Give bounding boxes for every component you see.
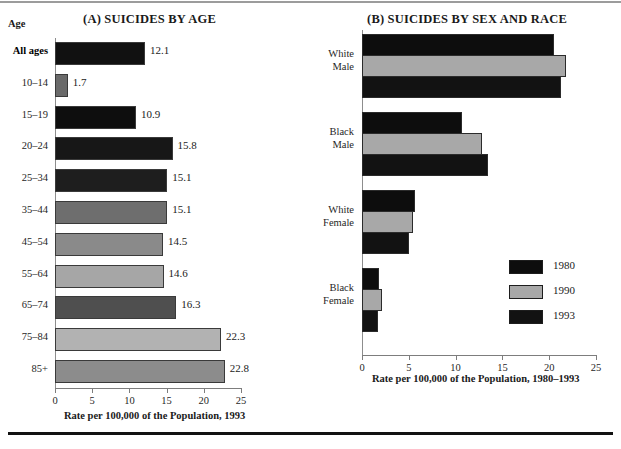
chart-b-group: BlackFemale	[362, 264, 596, 342]
chart-a-tick	[92, 388, 93, 393]
chart-a-bar	[55, 360, 225, 383]
chart-a-tick-label: 20	[199, 395, 210, 406]
chart-b-bar-1980	[362, 190, 415, 212]
chart-a-value-label: 16.3	[181, 298, 200, 310]
chart-a-value-label: 14.6	[169, 267, 188, 279]
legend-label: 1990	[553, 284, 575, 296]
chart-a-value-label: 15.1	[172, 203, 191, 215]
chart-b-bar-1990	[362, 289, 382, 311]
chart-a-bar	[55, 137, 173, 160]
chart-b-title: (B) SUICIDES BY SEX AND RACE	[309, 12, 621, 27]
chart-a-category-label: 35–44	[22, 204, 48, 215]
chart-b-category-label: WhiteFemale	[323, 203, 354, 229]
panel-suicides-by-age: (A) SUICIDES BY AGE Age All ages12.110–1…	[0, 0, 305, 430]
chart-a-value-label: 22.8	[230, 362, 249, 374]
chart-b-bar-1990	[362, 55, 566, 77]
chart-a-tick-label: 0	[52, 395, 57, 406]
chart-a-bar	[55, 42, 145, 65]
chart-a-value-label: 1.7	[73, 76, 87, 88]
chart-a-value-label: 22.3	[226, 330, 245, 342]
chart-a-tick	[204, 388, 205, 393]
legend-swatch	[509, 260, 543, 274]
chart-b-bar-1980	[362, 268, 379, 290]
chart-a-row: 45–5414.5	[55, 229, 241, 261]
legend-swatch	[509, 285, 543, 299]
chart-a-bar	[55, 201, 167, 224]
chart-a-bar	[55, 233, 163, 256]
chart-b-tick-label: 10	[450, 362, 461, 373]
chart-a-plot-area: All ages12.110–141.715–1910.920–2415.825…	[55, 38, 241, 388]
chart-a-axis-caption: Rate per 100,000 of the Population, 1993	[64, 410, 245, 421]
chart-a-value-label: 12.1	[150, 44, 169, 56]
chart-a-value-label: 14.5	[168, 235, 187, 247]
legend-label: 1980	[553, 259, 575, 271]
chart-a-x-axis	[55, 388, 241, 389]
chart-a-value-label: 15.8	[178, 139, 197, 151]
chart-b-group: WhiteFemale	[362, 186, 596, 264]
chart-a-row: 10–141.7	[55, 70, 241, 102]
chart-b-bar-1990	[362, 211, 413, 233]
bottom-rule	[8, 432, 613, 435]
chart-a-value-label: 15.1	[172, 171, 191, 183]
chart-a-category-label: All ages	[13, 45, 48, 56]
chart-a-tick-label: 15	[161, 395, 172, 406]
chart-a-bar	[55, 265, 164, 288]
chart-b-tick-label: 15	[497, 362, 508, 373]
chart-a-category-label: 25–34	[22, 172, 48, 183]
chart-b-tick-label: 20	[544, 362, 555, 373]
chart-a-tick	[167, 388, 168, 393]
chart-a-category-label: 45–54	[22, 236, 48, 247]
chart-a-category-label: 65–74	[22, 299, 48, 310]
chart-a-row: 25–3415.1	[55, 165, 241, 197]
age-column-header: Age	[8, 18, 26, 29]
chart-a-tick-label: 5	[90, 395, 95, 406]
chart-b-category-label: WhiteMale	[328, 47, 354, 73]
chart-b-bar-1993	[362, 310, 378, 332]
chart-b-tick	[502, 355, 503, 360]
chart-b-tick	[456, 355, 457, 360]
chart-b-axis-caption: Rate per 100,000 of the Population, 1980…	[372, 373, 579, 384]
chart-b-bar-1980	[362, 112, 462, 134]
chart-a-value-label: 10.9	[141, 108, 160, 120]
chart-a-bar	[55, 328, 221, 351]
chart-a-category-label: 15–19	[22, 109, 48, 120]
chart-a-tick-label: 10	[124, 395, 135, 406]
chart-b-group: WhiteMale	[362, 30, 596, 108]
legend-swatch	[509, 310, 543, 324]
chart-a-category-label: 10–14	[22, 77, 48, 88]
chart-a-tick-label: 25	[236, 395, 247, 406]
chart-a-row: All ages12.1	[55, 38, 241, 70]
chart-a-row: 20–2415.8	[55, 133, 241, 165]
chart-b-tick	[549, 355, 550, 360]
chart-b-bar-1993	[362, 232, 409, 254]
chart-b-tick-label: 25	[591, 362, 602, 373]
chart-b-tick	[596, 355, 597, 360]
chart-a-row: 35–4415.1	[55, 197, 241, 229]
chart-b-x-axis	[362, 355, 596, 356]
chart-a-row: 75–8422.3	[55, 324, 241, 356]
chart-a-bar	[55, 169, 167, 192]
chart-a-category-label: 20–24	[22, 140, 48, 151]
chart-b-plot-area: WhiteMaleBlackMaleWhiteFemaleBlackFemale…	[362, 30, 596, 355]
chart-a-category-label: 75–84	[22, 331, 48, 342]
chart-a-row: 15–1910.9	[55, 102, 241, 134]
chart-a-row: 85+22.8	[55, 356, 241, 388]
chart-b-tick-label: 5	[406, 362, 411, 373]
figure-page: (A) SUICIDES BY AGE Age All ages12.110–1…	[0, 0, 621, 449]
chart-a-tick	[55, 388, 56, 393]
chart-a-bar	[55, 74, 68, 97]
chart-a-row: 65–7416.3	[55, 292, 241, 324]
chart-b-bar-1980	[362, 34, 554, 56]
chart-b-bar-1993	[362, 154, 488, 176]
chart-b-bar-1990	[362, 133, 482, 155]
chart-b-tick-label: 0	[359, 362, 364, 373]
chart-a-bar	[55, 106, 136, 129]
chart-b-bar-1993	[362, 76, 561, 98]
chart-b-group: BlackMale	[362, 108, 596, 186]
chart-a-bar	[55, 296, 176, 319]
chart-a-category-label: 55–64	[22, 268, 48, 279]
chart-a-category-label: 85+	[32, 363, 48, 374]
chart-a-row: 55–6414.6	[55, 261, 241, 293]
chart-b-tick	[362, 355, 363, 360]
chart-b-category-label: BlackMale	[330, 125, 355, 151]
